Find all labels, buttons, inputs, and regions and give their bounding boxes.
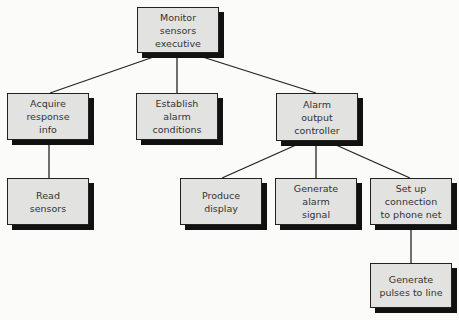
node-label: Set up connection to phone net — [381, 182, 442, 221]
node-set-up-connection: Set up connection to phone net — [370, 178, 452, 225]
node-label: Generate pulses to line — [379, 273, 442, 299]
node-read-sensors: Read sensors — [7, 178, 89, 225]
node-label: Alarm output controller — [294, 98, 339, 137]
node-generate-alarm-signal: Generate alarm signal — [275, 178, 357, 225]
node-generate-pulses-to-line: Generate pulses to line — [370, 263, 452, 308]
node-label: Establish alarm conditions — [153, 97, 202, 136]
node-label: Produce display — [202, 189, 240, 215]
node-label: Monitor sensors executive — [155, 11, 201, 50]
node-label: Read sensors — [30, 189, 66, 215]
node-acquire-response-info: Acquire response info — [7, 93, 89, 140]
node-produce-display: Produce display — [180, 178, 262, 225]
node-alarm-output-controller: Alarm output controller — [276, 93, 358, 141]
node-label: Generate alarm signal — [294, 182, 338, 221]
node-establish-alarm-conditions: Establish alarm conditions — [136, 93, 218, 140]
node-monitor-sensors-executive: Monitor sensors executive — [137, 7, 219, 53]
node-label: Acquire response info — [26, 97, 69, 136]
